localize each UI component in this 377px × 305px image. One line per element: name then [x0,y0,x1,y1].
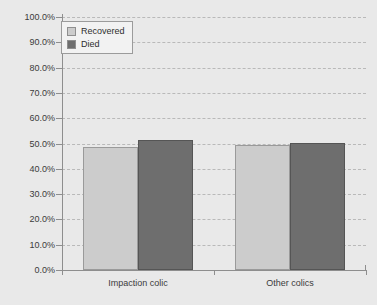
plot-area [62,17,366,270]
legend-item-died: Died [67,39,125,49]
gridline [62,93,366,94]
y-axis-tick-mark [56,17,62,18]
bar-died-impaction-colic [138,140,193,270]
x-axis-tick-mark [62,270,63,275]
y-axis-tick-label: 0.0% [34,265,55,275]
y-axis-tick-mark [56,194,62,195]
y-axis-tick-label: 70.0% [29,88,55,98]
y-axis-tick-mark [56,93,62,94]
x-axis-tick-mark [366,270,367,275]
x-axis-label-other-colics: Other colics [214,278,366,288]
y-axis-tick-label: 20.0% [29,214,55,224]
y-axis-tick-label: 90.0% [29,37,55,47]
bar-died-other-colics [290,143,345,270]
y-axis-tick-mark [56,68,62,69]
x-axis-label-impaction-colic: Impaction colic [62,278,214,288]
y-axis-tick-label: 50.0% [29,139,55,149]
legend-label-died: Died [81,39,100,49]
bar-recovered-other-colics [235,145,290,270]
bar-recovered-impaction-colic [83,147,138,270]
y-axis-tick-mark [56,219,62,220]
y-axis-tick-label: 100.0% [24,12,55,22]
legend-label-recovered: Recovered [81,26,125,36]
legend-swatch-died-icon [67,40,76,49]
y-axis-tick-label: 30.0% [29,189,55,199]
legend-swatch-recovered-icon [67,27,76,36]
x-axis-tick-mark [214,270,215,275]
gridline [62,17,366,18]
bar-chart: 0.0%10.0%20.0%30.0%40.0%50.0%60.0%70.0%8… [0,0,377,305]
gridline [62,118,366,119]
y-axis-tick-label: 40.0% [29,164,55,174]
y-axis-tick-mark [56,245,62,246]
chart-legend: Recovered Died [61,21,133,54]
y-axis-tick-mark [56,169,62,170]
y-axis-tick-label: 60.0% [29,113,55,123]
gridline [62,68,366,69]
legend-item-recovered: Recovered [67,26,125,36]
y-axis-tick-label: 10.0% [29,240,55,250]
y-axis-tick-label: 80.0% [29,63,55,73]
y-axis-tick-mark [56,144,62,145]
y-axis-tick-mark [56,118,62,119]
